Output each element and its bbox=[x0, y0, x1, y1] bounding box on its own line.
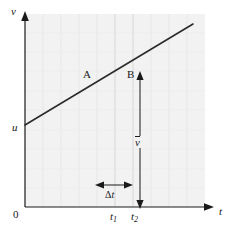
x-axis-label: t bbox=[219, 206, 222, 217]
tick-label-t2: t2 bbox=[131, 211, 138, 224]
point-a-label: A bbox=[83, 69, 91, 80]
chart-canvas bbox=[0, 0, 230, 234]
average-velocity-symbol: v bbox=[135, 136, 140, 148]
tick-label-t2-sub: 2 bbox=[134, 215, 138, 224]
tick-label-t1-sub: 1 bbox=[113, 215, 117, 224]
velocity-time-graph-figure: v t 0 u A B v Δt t1 t2 bbox=[0, 0, 230, 234]
y-axis-label: v bbox=[11, 6, 16, 17]
tick-label-t1: t1 bbox=[110, 211, 117, 224]
average-velocity-label: v bbox=[134, 136, 141, 148]
x-axis-arrowhead bbox=[204, 203, 214, 211]
origin-label: 0 bbox=[13, 209, 19, 220]
initial-velocity-label: u bbox=[12, 122, 18, 133]
delta-t-label: Δt bbox=[105, 190, 114, 200]
point-b-label: B bbox=[127, 69, 134, 80]
delta-variable: t bbox=[111, 189, 114, 200]
